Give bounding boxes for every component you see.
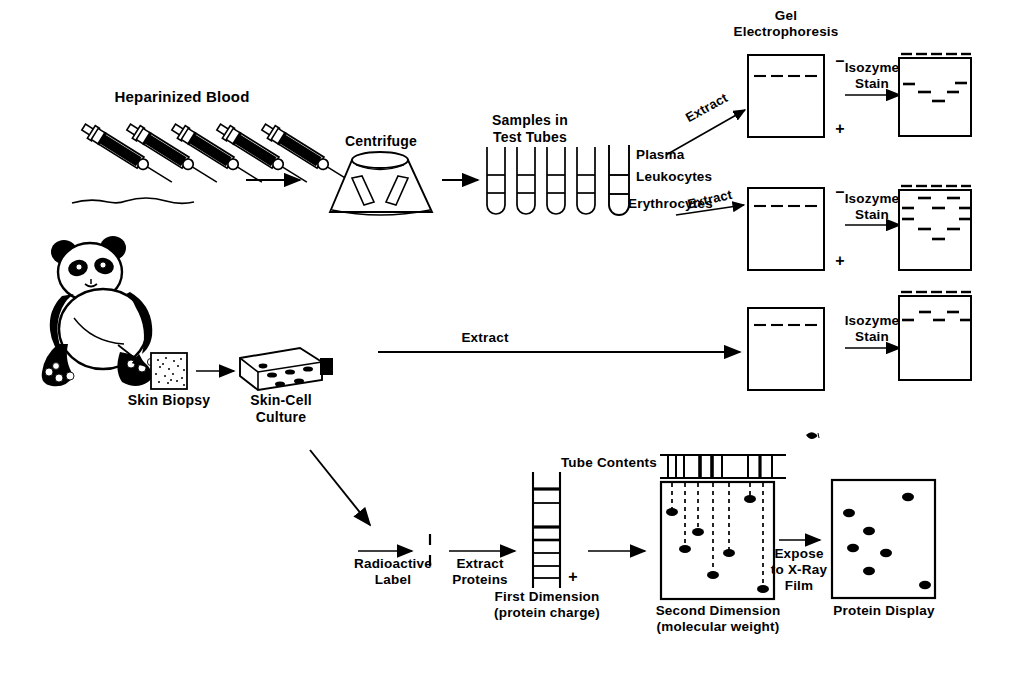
label-gel-electrophoresis: Gel Electrophoresis	[733, 8, 838, 40]
arrow-culture-to-radiolabel	[310, 450, 370, 525]
label-skin-biopsy: Skin Biopsy	[128, 392, 210, 409]
label-first-dimension: First Dimension (protein charge)	[494, 589, 600, 621]
diagram-canvas: Heparinized Blood Centrifuge Samples in …	[0, 0, 1015, 673]
skin-biopsy-icon	[151, 353, 187, 389]
label-minus-1: –	[835, 52, 844, 71]
skin-cell-culture-flask	[240, 348, 333, 390]
label-isozyme-stain-3: Isozyme Stain	[845, 313, 900, 345]
label-expose-to-xray-film: Expose to X-Ray Film	[771, 546, 827, 594]
label-protein-display: Protein Display	[833, 603, 934, 619]
protein-display-film	[832, 480, 935, 598]
test-tube-group	[487, 145, 629, 215]
label-plasma: Plasma	[636, 147, 684, 163]
label-minus-2: –	[835, 183, 844, 202]
label-radioactive-label: Radioactive Label	[354, 556, 432, 588]
label-leukocytes: Leukocytes	[636, 169, 712, 185]
label-isozyme-stain-1: Isozyme Stain	[845, 60, 900, 92]
centrifuge-icon	[330, 152, 432, 215]
label-tube-contents: Tube Contents	[561, 455, 657, 471]
label-first-dimension-plus: +	[568, 568, 578, 587]
second-dimension-gel	[661, 482, 774, 599]
label-plus-2: +	[835, 252, 845, 271]
first-dimension-gel	[533, 472, 560, 588]
label-centrifuge: Centrifuge	[345, 133, 417, 150]
panda-illustration	[42, 236, 155, 386]
label-extract-proteins: Extract Proteins	[452, 556, 508, 588]
syringe-group	[72, 121, 356, 204]
label-skin-cell-culture: Skin-Cell Culture	[250, 392, 312, 425]
label-isozyme-stain-2: Isozyme Stain	[845, 191, 900, 223]
label-samples-in-test-tubes: Samples in Test Tubes	[492, 112, 568, 145]
label-heparinized-blood: Heparinized Blood	[114, 88, 249, 106]
label-plus-1: +	[835, 120, 845, 139]
ink-artifact	[806, 432, 819, 439]
tube-contents-strip	[660, 455, 786, 478]
label-second-dimension: Second Dimension (molecular weight)	[656, 603, 781, 635]
label-extract-3: Extract	[461, 330, 508, 346]
